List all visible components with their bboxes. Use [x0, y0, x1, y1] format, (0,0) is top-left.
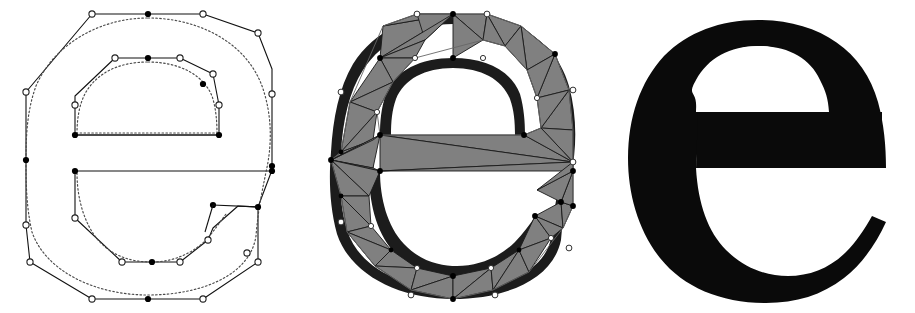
off-curve-control-points [23, 11, 275, 302]
glyph-e-bowl-detail [696, 112, 882, 168]
outline-diagram [0, 0, 305, 313]
on-curve-points [23, 11, 275, 302]
inner-counter-bezier-curve [77, 62, 217, 133]
figure-root: Glyph outline drawn as control polygons … [0, 0, 915, 313]
filled-glyph [610, 0, 915, 313]
lower-counter-bezier-curve [77, 173, 226, 262]
tessellation-diagram [305, 0, 610, 313]
panel-outline [0, 0, 305, 313]
inner-counter-control-polygon [75, 58, 219, 135]
panel-filled [610, 0, 915, 313]
lower-counter-control-polygon [75, 171, 258, 262]
panel-tessellated [305, 0, 610, 313]
